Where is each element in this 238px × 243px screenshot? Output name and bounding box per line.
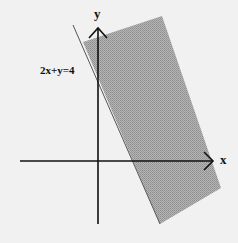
shaded-region xyxy=(83,16,221,224)
equation-label: 2x+y=4 xyxy=(40,64,75,76)
inequality-diagram: 2x+y=4 y x xyxy=(0,0,238,243)
x-axis-label: x xyxy=(220,152,227,168)
graph-svg xyxy=(0,0,238,243)
y-axis-label: y xyxy=(94,6,101,22)
